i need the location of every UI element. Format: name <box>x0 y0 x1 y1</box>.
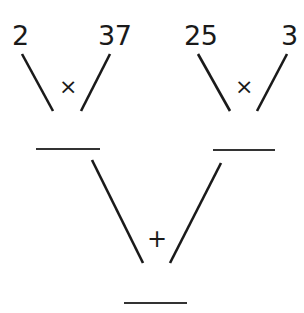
left-factor-a: 2 <box>12 22 29 49</box>
plus-sign: + <box>147 228 167 250</box>
diagram-lines <box>0 0 304 313</box>
right-multiply-sign: × <box>235 76 253 98</box>
combine-branch-right <box>170 163 221 263</box>
left-factor-b: 37 <box>98 22 131 49</box>
left-group-branch-left <box>22 54 53 111</box>
right-factor-a: 25 <box>184 22 217 49</box>
left-multiply-sign: × <box>59 76 77 98</box>
combine-branch-left <box>92 160 143 263</box>
right-factor-b: 3 <box>281 22 298 49</box>
right-group-branch-left <box>198 54 230 111</box>
right-group-branch-right <box>257 54 287 111</box>
left-group-branch-right <box>81 54 110 111</box>
